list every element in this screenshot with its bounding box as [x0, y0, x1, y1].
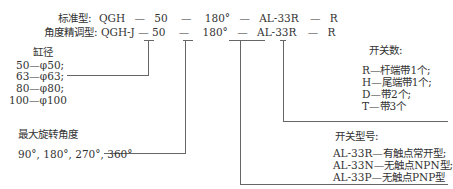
switch-type-connector-h	[240, 184, 448, 185]
dash: —	[239, 12, 250, 24]
switch-type-connector-v	[240, 40, 241, 184]
switch-type-item: AL-33P—无触点PNP型	[333, 171, 445, 183]
angle-values: 90°, 180°, 270°, 360°	[18, 148, 133, 160]
bore-title: 缸径	[33, 46, 53, 58]
precision-type-code: 角度精调型: QGH-J — 50 — 180° — AL-33R — R	[44, 26, 336, 38]
dash: —	[237, 26, 248, 38]
dash: —	[308, 26, 319, 38]
bore-item: 100—φ100	[9, 94, 67, 106]
standard-prefix: 标准型:	[58, 12, 92, 24]
angle-title: 最大旋转角度	[18, 128, 78, 140]
standard-angle: 180°	[205, 12, 230, 24]
precision-switch: AL-33R	[257, 26, 296, 38]
standard-count: R	[330, 12, 338, 24]
standard-switch: AL-33R	[259, 12, 298, 24]
standard-model: QGH	[99, 12, 125, 24]
dash: —	[310, 12, 321, 24]
precision-model: QGH-J	[101, 26, 135, 38]
switch-count-item: R—杆端带1个;	[362, 64, 431, 76]
bore-item: 63—φ63;	[16, 70, 64, 82]
angle-connector-v	[185, 40, 186, 153]
switch-count-connector-h	[283, 121, 448, 122]
switch-count-item: T—带3个	[362, 100, 406, 112]
precision-angle: 180°	[203, 26, 228, 38]
switch-type-item: AL-33R—有触点常开型;	[333, 147, 446, 159]
precision-bore: 50	[152, 26, 165, 38]
switch-count-item: D—带2个;	[362, 88, 411, 100]
dash: —	[138, 26, 149, 38]
precision-prefix: 角度精调型:	[44, 26, 98, 38]
precision-count: R	[328, 26, 336, 38]
standard-type-code: 标准型: QGH — 50 — 180° — AL-33R — R	[58, 12, 338, 24]
bore-connector-h	[67, 75, 149, 76]
switch-type-title: 开关型号:	[335, 130, 379, 142]
dash: —	[181, 12, 192, 24]
switch-count-item: H—尾端带1个;	[362, 76, 432, 88]
bore-underline	[144, 40, 154, 41]
switch-count-connector-v	[283, 40, 284, 121]
standard-bore: 50	[154, 12, 167, 24]
switch-type-item: AL-33N—无触点NPN型;	[333, 159, 453, 171]
bore-item: 80—φ80;	[16, 82, 64, 94]
switch-underline	[229, 40, 265, 41]
dash: —	[179, 26, 190, 38]
dash: —	[134, 12, 145, 24]
switch-count-title: 开关数:	[369, 44, 403, 56]
bore-connector-v	[148, 40, 149, 75]
